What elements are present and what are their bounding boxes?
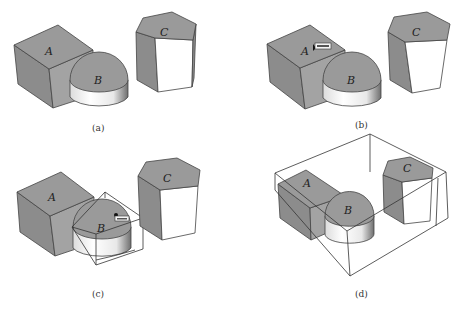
- object-c-hexprism[interactable]: C: [388, 12, 450, 93]
- object-b-cylinder[interactable]: B: [70, 52, 128, 106]
- object-c-hexprism[interactable]: C: [383, 157, 433, 224]
- caption-c: (c): [92, 289, 104, 299]
- label-a: A: [47, 191, 56, 204]
- label-c: C: [163, 172, 172, 185]
- label-b: B: [346, 74, 355, 87]
- label-a: A: [300, 45, 309, 58]
- label-c: C: [403, 162, 412, 175]
- panel-a: A B C (a): [14, 12, 196, 133]
- object-c-hexprism[interactable]: C: [136, 12, 196, 92]
- label-b: B: [343, 204, 352, 217]
- caption-b: (b): [355, 120, 368, 130]
- caption-d: (d): [355, 289, 368, 299]
- label-b: B: [96, 222, 105, 235]
- object-b-cylinder[interactable]: B: [325, 191, 374, 243]
- object-b-cylinder[interactable]: B: [73, 199, 131, 256]
- panel-d: A B C (d): [275, 134, 448, 299]
- panel-b: A B C (b): [267, 12, 450, 130]
- figure-canvas: A B C (a) A B: [0, 0, 456, 312]
- object-c-hexprism[interactable]: C: [138, 158, 200, 240]
- label-a: A: [44, 45, 53, 58]
- label-b: B: [93, 74, 102, 87]
- label-c: C: [160, 26, 169, 39]
- object-b-cylinder[interactable]: B: [323, 52, 381, 106]
- panel-c: A B C (c): [17, 158, 200, 299]
- caption-a: (a): [92, 123, 104, 133]
- label-c: C: [412, 26, 421, 39]
- label-a: A: [302, 177, 311, 190]
